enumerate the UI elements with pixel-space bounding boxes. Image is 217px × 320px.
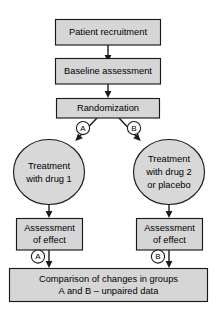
- result-b-label: B: [155, 252, 160, 261]
- trial-flowchart: Patient recruitment Baseline assessment …: [0, 0, 217, 320]
- treatment-a-label-line2: with drug 1: [25, 174, 71, 184]
- comparison-label-line2: A and B – unpaired data: [59, 286, 160, 296]
- treatment-b-label-line2: with drug 2: [145, 167, 191, 177]
- node-patient-recruitment: Patient recruitment: [56, 20, 161, 46]
- assessment-a-label-line1: Assessment: [24, 223, 75, 233]
- baseline-assessment-label: Baseline assessment: [64, 66, 152, 76]
- marker-branch-a: A: [76, 121, 89, 134]
- randomization-label: Randomization: [77, 103, 139, 113]
- treatment-a-ellipse: [14, 140, 85, 205]
- node-treatment-a: Treatment with drug 1: [14, 140, 85, 205]
- treatment-b-label-line3: or placebo: [147, 180, 190, 190]
- marker-result-b: B: [151, 250, 164, 263]
- node-comparison: Comparison of changes in groups A and B …: [10, 269, 208, 302]
- node-randomization: Randomization: [57, 99, 160, 119]
- treatment-a-label-line1: Treatment: [28, 161, 70, 171]
- arrowhead-treatment-a-to-assessment-a: [46, 211, 53, 218]
- node-baseline-assessment: Baseline assessment: [56, 59, 161, 85]
- branch-a-label: A: [80, 124, 86, 133]
- arrowhead-baseline-to-randomization: [105, 91, 112, 98]
- arrowhead-assessment-a-to-comparison: [46, 261, 53, 268]
- assessment-b-label-line1: Assessment: [144, 223, 195, 233]
- patient-recruitment-label: Patient recruitment: [69, 27, 147, 37]
- node-treatment-b: Treatment with drug 2 or placebo: [134, 140, 205, 205]
- treatment-b-label-line1: Treatment: [148, 154, 190, 164]
- node-assessment-b: Assessment of effect: [137, 219, 203, 251]
- arrowhead-assessment-b-to-comparison: [166, 261, 173, 268]
- marker-result-a: A: [31, 250, 44, 263]
- branch-b-label: B: [131, 124, 136, 133]
- assessment-b-label-line2: of effect: [153, 235, 186, 245]
- node-assessment-a: Assessment of effect: [17, 219, 83, 251]
- flowchart-canvas: Patient recruitment Baseline assessment …: [0, 0, 217, 320]
- result-a-label: A: [35, 252, 41, 261]
- arrowhead-treatment-b-to-assessment-b: [166, 211, 173, 218]
- comparison-label-line1: Comparison of changes in groups: [39, 274, 178, 284]
- marker-branch-b: B: [127, 121, 140, 134]
- assessment-a-label-line2: of effect: [33, 235, 66, 245]
